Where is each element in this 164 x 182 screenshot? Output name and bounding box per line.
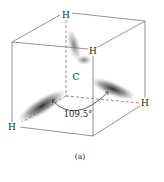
- atom-h-front-top: H: [89, 46, 97, 56]
- atom-h-top: H: [62, 10, 70, 20]
- atom-h-right: H: [141, 98, 149, 108]
- methane-tetrahedral-diagram: H H H H C 109.5° (a): [0, 0, 164, 182]
- bond-angle-label: 109.5°: [64, 109, 93, 119]
- figure-caption: (a): [75, 152, 85, 161]
- atom-c-center: C: [73, 72, 80, 82]
- orbital-lobe-bottom-left: [14, 84, 70, 127]
- orbital-lobe-right: [88, 74, 138, 105]
- atom-h-bottom-left: H: [8, 122, 16, 132]
- orbital-lobe-front: [76, 55, 92, 65]
